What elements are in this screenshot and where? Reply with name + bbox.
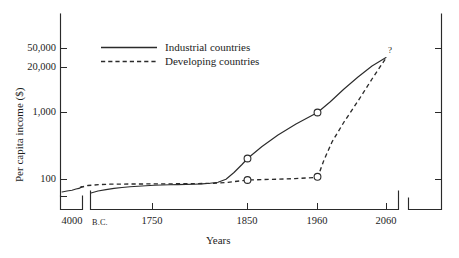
series-industrial-line [91, 58, 386, 194]
y-axis-title: Per capita income ($) [14, 88, 25, 182]
x-axis-stub-left [61, 196, 83, 210]
x-axis-main [91, 191, 399, 210]
figure-chart-per-capita-income: 50,000 20,000 1,000 100 Per capita incom… [0, 0, 459, 258]
marker-industrial-1960 [314, 109, 321, 116]
x-tick-label-bc-suffix: B.C. [92, 219, 108, 227]
x-tick-label-1850: 1850 [227, 216, 267, 227]
x-tick-label-2060: 2060 [366, 216, 406, 227]
x-tick-label-1960: 1960 [297, 216, 337, 227]
annotation-question-mark: ? [388, 46, 392, 55]
x-tick-label-1750: 1750 [132, 216, 172, 227]
x-axis-title: Years [206, 235, 231, 246]
right-axis-line [409, 14, 442, 210]
legend-label-industrial: Industrial countries [165, 42, 250, 53]
marker-industrial-1850 [244, 155, 251, 162]
marker-developing-1960 [314, 173, 321, 180]
marker-developing-1850 [244, 177, 251, 184]
y-tick-label-50000: 50,000 [18, 43, 56, 54]
series-developing-line [80, 58, 386, 188]
series-industrial-ancient-segment [62, 187, 82, 193]
y-tick-label-20000: 20,000 [18, 62, 56, 73]
x-tick-label-4000bc: 4000 [52, 216, 92, 227]
legend-label-developing: Developing countries [165, 56, 259, 67]
